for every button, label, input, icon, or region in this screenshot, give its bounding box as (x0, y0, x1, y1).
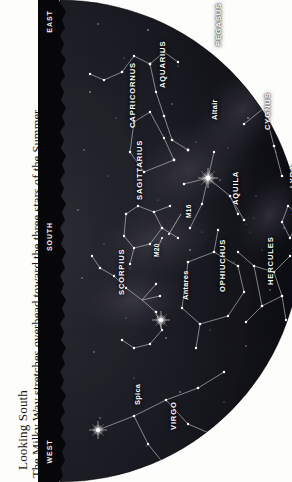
compass-label-west: WEST (45, 430, 52, 474)
sky-dome: EAST SOUTH WEST PEGASUSAQUARIUSCAPRICORN… (38, 0, 292, 482)
compass-label-south: SOUTH (45, 215, 52, 259)
caption-title: Looking South (15, 390, 31, 470)
sky-map-svg (38, 0, 292, 482)
star-chart-page: Looking South The Milky Way stretches ov… (0, 0, 292, 482)
dome-interior (38, 0, 292, 482)
caption: Looking South The Milky Way stretches ov… (0, 0, 30, 482)
compass-label-east: EAST (45, 0, 52, 44)
horizon-treeline (59, 0, 68, 482)
